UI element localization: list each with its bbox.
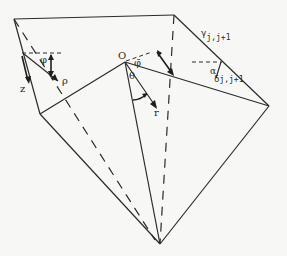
hidden-edge-left — [14, 19, 155, 240]
label-delta: δj,j+1 — [214, 74, 244, 84]
edge-top — [14, 15, 174, 19]
solid-edges — [14, 15, 269, 244]
label-r: r — [154, 107, 159, 118]
hidden-edge-right — [160, 15, 174, 244]
edge-right-lower — [160, 106, 269, 244]
phi-arrowhead-up-icon — [48, 54, 54, 60]
edge-left-to-origin — [40, 62, 125, 114]
hidden-edges — [14, 15, 174, 244]
origin-construction: O φ̄ θ r — [118, 50, 174, 118]
label-rho: ρ — [62, 75, 68, 86]
label-z: z — [20, 83, 25, 94]
edge-right-upper — [174, 15, 269, 106]
label-phi-bar: φ̄ — [134, 57, 141, 68]
label-origin: O — [118, 50, 126, 61]
edge-left-upper — [14, 19, 40, 114]
label-phi: φ — [40, 54, 47, 65]
edge-left-lower — [40, 114, 160, 244]
left-angle-construction: φ ρ z — [20, 53, 68, 94]
rho-arrowhead-icon — [51, 74, 58, 81]
label-gamma: γj,j+1 — [201, 28, 231, 42]
facet-geometry-diagram: φ ρ z O φ̄ θ r γj,j+1 — [0, 0, 287, 256]
edge-origin-to-right — [125, 62, 269, 106]
right-angle-construction: γj,j+1 α δj,j+1 — [192, 28, 244, 84]
edge-origin-to-bottom — [125, 62, 160, 244]
